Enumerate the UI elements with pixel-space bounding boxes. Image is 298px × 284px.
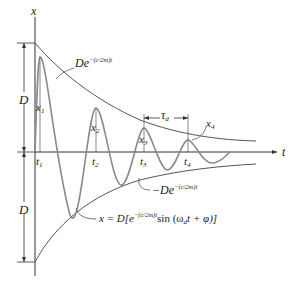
t1-label: t1	[36, 156, 43, 169]
equation-exponent: −(c/2m)t	[134, 211, 157, 218]
lower-envelope-label: −De−(c/2m)t	[152, 184, 197, 196]
d-lower-label: D	[19, 203, 28, 216]
upper-envelope-exponent: −(c/2m)t	[89, 56, 112, 63]
t4-sub: 4	[187, 161, 191, 169]
response-equation: x = D[e−(c/2m)tsin (ωdt + φ)]	[99, 212, 217, 226]
x2-label: x2	[91, 122, 99, 135]
x4-leader	[192, 127, 206, 140]
upper-envelope-base: De	[75, 56, 89, 70]
damped-vibration-diagram: x t D D De−(c/2m)t −De−(c/2m)t x = D[e−(…	[0, 0, 298, 284]
lower-envelope-exponent: −(c/2m)t	[174, 183, 197, 190]
equation-lhs: x = D[e	[99, 212, 134, 224]
diagram-canvas	[0, 0, 298, 284]
t3-sub: 3	[143, 161, 147, 169]
lower-envelope-base: −De	[152, 183, 174, 197]
arrow-right-icon	[183, 116, 188, 120]
x1-label: x1	[36, 102, 44, 115]
x1-sub: 1	[41, 107, 45, 115]
t2-label: t2	[92, 156, 99, 169]
equation-sin: sin (ω	[157, 212, 184, 224]
t-axis-arrow-icon	[272, 150, 277, 154]
t-axis-label: t	[282, 146, 285, 158]
upper-envelope-label: De−(c/2m)t	[75, 57, 112, 69]
arrow-up-icon	[22, 43, 26, 48]
t3-label: t3	[140, 156, 147, 169]
d-upper-label: D	[19, 93, 28, 106]
t2-sub: 2	[95, 161, 99, 169]
arrow-down-icon	[22, 147, 26, 152]
x3-label: x3	[139, 134, 147, 147]
x-axis-label: x	[31, 5, 36, 17]
arrow-left-icon	[144, 116, 149, 120]
x4-sub: 4	[211, 123, 215, 131]
tau-sub: d	[165, 115, 169, 123]
arrow-down-icon	[22, 257, 26, 262]
response-curve	[35, 57, 230, 218]
tau-d-label: τd	[161, 109, 169, 123]
equation-tail: t + φ)]	[187, 212, 217, 224]
t4-label: t4	[184, 156, 191, 169]
t1-sub: 1	[39, 161, 43, 169]
arrow-up-icon	[22, 152, 26, 157]
x2-sub: 2	[96, 127, 100, 135]
equation-leader	[76, 208, 96, 219]
x4-label: x4	[206, 118, 214, 131]
upper-envelope-curve	[35, 43, 256, 141]
x3-sub: 3	[144, 139, 148, 147]
